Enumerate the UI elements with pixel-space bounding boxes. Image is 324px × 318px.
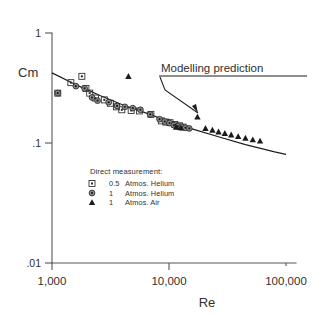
legend-marker-circle: [89, 190, 95, 196]
x-tick-label-100000: 100,000: [265, 275, 307, 287]
data-point-circle-8: [130, 105, 136, 111]
data-point-circle-6: [114, 103, 120, 109]
x-tick-label-1000: 1,000: [38, 275, 67, 287]
legend-quantity-0: 0.5: [109, 179, 120, 188]
y-tick-label-0.01: .01: [26, 257, 41, 269]
legend-quantity-2: 1: [109, 198, 113, 207]
data-point-circle-10: [147, 111, 153, 117]
y-axis-title: Cm: [18, 65, 38, 80]
annotation-label: Modelling prediction: [161, 62, 263, 74]
plot-background: [0, 0, 324, 318]
data-point-circle-3: [89, 95, 95, 101]
data-point-circle-18: [186, 126, 192, 132]
x-axis-title: Re: [199, 295, 216, 310]
legend-label-0: Atmos. Helium: [125, 179, 174, 188]
x-tick-label-10000: 10,000: [151, 275, 186, 287]
data-point-circle-4: [95, 98, 101, 104]
data-point-circle-5: [106, 99, 112, 105]
legend-label-1: Atmos. Helium: [125, 189, 174, 198]
legend-title: Direct measurement:: [90, 167, 162, 176]
data-point-circle-7: [122, 104, 128, 110]
legend-quantity-1: 1: [109, 189, 113, 198]
data-point-circle-9: [138, 107, 144, 113]
data-point-circle-2: [82, 85, 88, 91]
cm-vs-re-log-log-scatter-plot: 1 .1 .01 1,000 10,000 100,000 Cm Re Mode…: [0, 0, 324, 318]
data-point-circle-0: [55, 90, 61, 96]
y-tick-label-0.1: .1: [32, 137, 41, 149]
legend-label-2: Atmos. Air: [125, 198, 160, 207]
y-tick-label-1: 1: [35, 27, 41, 39]
data-point-circle-1: [73, 83, 79, 89]
chart-container: 1 .1 .01 1,000 10,000 100,000 Cm Re Mode…: [0, 0, 324, 318]
